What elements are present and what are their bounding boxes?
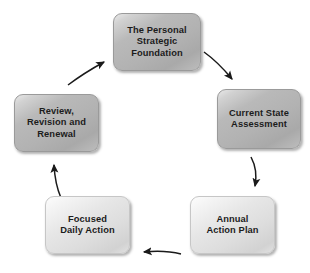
- arrow-review-to-foundation: [68, 62, 104, 85]
- node-label: Focused Daily Action: [57, 214, 118, 237]
- node-label: Current State Assessment: [226, 108, 292, 131]
- cycle-diagram-canvas: The Personal Strategic Foundation Curren…: [0, 0, 310, 273]
- arrow-plan-to-daily-action: [144, 251, 181, 254]
- node-review-revision-renewal[interactable]: Review, Revision and Renewal: [14, 94, 99, 152]
- node-label: Review, Revision and Renewal: [24, 106, 89, 140]
- node-label: The Personal Strategic Foundation: [124, 25, 190, 59]
- arrow-assessment-to-plan: [251, 157, 256, 186]
- arrow-daily-action-to-review: [54, 165, 61, 198]
- arrow-foundation-to-assessment: [204, 52, 232, 79]
- node-focused-daily-action[interactable]: Focused Daily Action: [45, 196, 130, 254]
- node-label: Annual Action Plan: [203, 214, 261, 237]
- node-current-state-assessment[interactable]: Current State Assessment: [217, 89, 301, 149]
- node-personal-strategic-foundation[interactable]: The Personal Strategic Foundation: [113, 13, 201, 71]
- node-annual-action-plan[interactable]: Annual Action Plan: [190, 196, 275, 254]
